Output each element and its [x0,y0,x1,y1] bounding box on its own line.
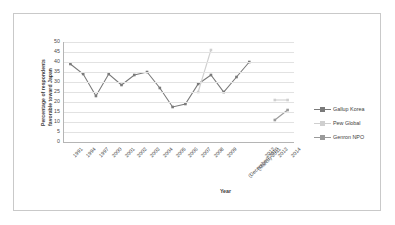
gridline [64,72,294,73]
gridline [64,52,294,53]
gridline [64,112,294,113]
figure-frame: Percentage of respondents favorable towa… [13,13,381,211]
y-axis-line [63,42,64,142]
legend-marker-icon [314,133,331,141]
y-tick-label: 15 [44,109,60,114]
x-tick-label: 2003 [148,146,160,158]
gridline [64,122,294,123]
x-tick-label: 2004 [161,146,173,158]
gridline [64,92,294,93]
y-tick-label: 30 [44,79,60,84]
legend-item[interactable]: Gallup Korea [314,102,380,116]
x-tick-label: 2014 [289,146,301,158]
legend-item-label: Pew Global [333,120,361,126]
y-tick-label: 5 [44,129,60,134]
legend-marker-icon [314,105,331,113]
x-tick-label: 2007 [200,146,212,158]
y-tick-label: 0 [44,139,60,144]
legend-item-label: Genron NPO [333,134,364,140]
y-tick-label: 10 [44,119,60,124]
x-axis-label: Year [220,188,231,194]
x-tick-label: 2002 [136,146,148,158]
x-axis-line [63,142,294,143]
legend-marker-icon [314,119,331,127]
y-tick-label: 50 [44,39,60,44]
x-tick-label: 2008 [212,146,224,158]
x-tick-label: 2006 [187,146,199,158]
gridline [64,62,294,63]
x-tick-label: 2001 [123,146,135,158]
x-axis-tick-labels: 1991199419972000200120022003200420052006… [64,144,314,224]
x-tick-label: 2000 [110,146,122,158]
x-tick-label: 2009 [225,146,237,158]
legend-item[interactable]: Genron NPO [314,130,380,144]
legend-item[interactable]: Pew Global [314,116,380,130]
y-tick-label: 25 [44,89,60,94]
gridline [64,82,294,83]
chart-plot-area: Percentage of respondents favorable towa… [14,14,382,212]
gridline [64,132,294,133]
legend-item-label: Gallup Korea [333,106,364,112]
x-tick-label: 1997 [97,146,109,158]
y-tick-label: 40 [44,59,60,64]
gridline [64,42,294,43]
y-tick-label: 35 [44,69,60,74]
x-tick-label: 1991 [72,146,84,158]
gridline [64,102,294,103]
x-tick-label: 2005 [174,146,186,158]
x-tick-label: 1994 [85,146,97,158]
y-tick-label: 20 [44,99,60,104]
legend: Gallup KoreaPew GlobalGenron NPO [314,102,380,144]
y-axis-tick-labels: 50454035302520151050 [42,14,60,212]
y-tick-label: 45 [44,49,60,54]
